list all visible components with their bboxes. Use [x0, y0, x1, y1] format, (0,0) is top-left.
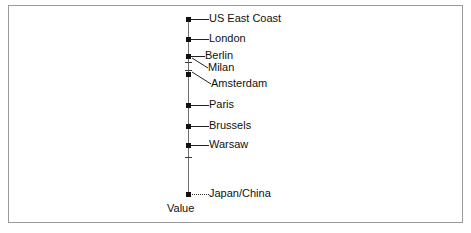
data-point-marker[interactable]: [186, 192, 191, 197]
data-point-label: Berlin: [205, 50, 233, 61]
leader-line: [191, 19, 209, 20]
axis-minor-tick: [185, 62, 192, 63]
leader-line: [191, 56, 205, 57]
data-point-label: Amsterdam: [211, 78, 267, 89]
data-point-label: Warsaw: [209, 139, 248, 150]
leader-line: [191, 145, 209, 146]
leader-line: [191, 39, 209, 40]
data-point-label: Japan/China: [209, 188, 271, 199]
leader-line: [191, 105, 209, 106]
axis-minor-tick: [185, 157, 192, 158]
data-point-label: Milan: [208, 62, 234, 73]
axis-minor-tick: [185, 70, 192, 71]
value-axis-line: [188, 19, 189, 197]
data-point-marker[interactable]: [186, 72, 191, 77]
leader-line: [191, 126, 209, 127]
data-point-label: London: [209, 33, 246, 44]
leader-line-dotted: [192, 194, 209, 195]
chart-screenshot: US East Coast London Berlin Milan Amster…: [0, 0, 471, 233]
data-point-label: Paris: [209, 99, 234, 110]
data-point-label: Brussels: [209, 120, 251, 131]
data-point-label: US East Coast: [209, 13, 281, 24]
value-axis-title: Value: [167, 203, 194, 214]
chart-plot-area: US East Coast London Berlin Milan Amster…: [0, 0, 471, 233]
